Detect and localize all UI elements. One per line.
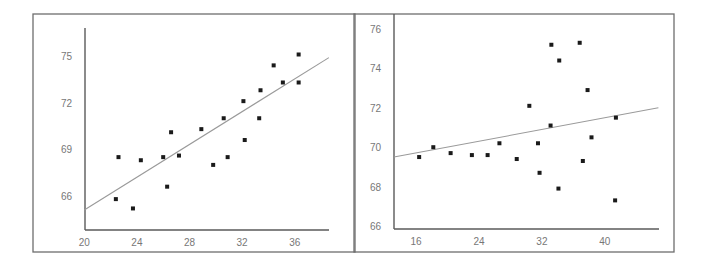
- data-point: [581, 159, 585, 163]
- data-point: [297, 52, 301, 56]
- data-point: [449, 151, 453, 155]
- y-tick-label: 68: [370, 182, 382, 193]
- data-point: [259, 88, 263, 92]
- data-point: [578, 41, 582, 45]
- data-point: [177, 154, 181, 158]
- data-point: [161, 155, 165, 159]
- data-point: [613, 198, 617, 202]
- data-point: [241, 99, 245, 103]
- data-point: [586, 88, 590, 92]
- y-tick-label: 66: [61, 191, 73, 202]
- scatter-plots-figure: 202428323666697275 16243240666870727476: [0, 0, 707, 265]
- data-point: [614, 116, 618, 120]
- data-point: [486, 153, 490, 157]
- x-tick-label: 36: [289, 237, 301, 248]
- data-point: [257, 116, 261, 120]
- data-point: [169, 130, 173, 134]
- plot-frame: [354, 14, 674, 252]
- y-tick-label: 72: [370, 103, 382, 114]
- data-point: [165, 185, 169, 189]
- data-point: [515, 157, 519, 161]
- data-point: [226, 155, 230, 159]
- data-point: [590, 135, 594, 139]
- y-tick-label: 75: [61, 51, 73, 62]
- x-tick-label: 16: [410, 236, 422, 247]
- regression-line: [84, 58, 329, 210]
- y-tick-label: 74: [370, 63, 382, 74]
- data-point: [557, 59, 561, 63]
- plot-frame: [33, 14, 355, 252]
- x-tick-label: 32: [536, 236, 548, 247]
- data-point: [497, 141, 501, 145]
- left-scatter-plot: 202428323666697275: [33, 14, 355, 252]
- y-tick-label: 72: [61, 98, 73, 109]
- data-point: [222, 116, 226, 120]
- data-point: [297, 80, 301, 84]
- x-tick-label: 40: [599, 236, 611, 247]
- y-tick-label: 70: [370, 142, 382, 153]
- data-point: [556, 187, 560, 191]
- data-point: [114, 197, 118, 201]
- data-point: [538, 171, 542, 175]
- data-point: [199, 127, 203, 131]
- x-tick-label: 20: [79, 237, 91, 248]
- right-scatter-plot: 16243240666870727476: [354, 14, 674, 252]
- y-tick-label: 69: [61, 144, 73, 155]
- data-point: [139, 158, 143, 162]
- data-point: [281, 80, 285, 84]
- data-point: [470, 153, 474, 157]
- data-point: [116, 155, 120, 159]
- data-point: [272, 63, 276, 67]
- x-tick-label: 24: [473, 236, 485, 247]
- data-point: [131, 206, 135, 210]
- x-tick-label: 28: [184, 237, 196, 248]
- data-point: [417, 155, 421, 159]
- data-point: [536, 141, 540, 145]
- regression-line: [394, 108, 658, 157]
- data-point: [549, 43, 553, 47]
- y-tick-label: 76: [370, 24, 382, 35]
- x-tick-label: 32: [237, 237, 249, 248]
- data-point: [527, 104, 531, 108]
- data-point: [431, 145, 435, 149]
- x-tick-label: 24: [131, 237, 143, 248]
- data-point: [211, 163, 215, 167]
- data-point: [243, 138, 247, 142]
- y-tick-label: 66: [370, 221, 382, 232]
- data-point: [549, 124, 553, 128]
